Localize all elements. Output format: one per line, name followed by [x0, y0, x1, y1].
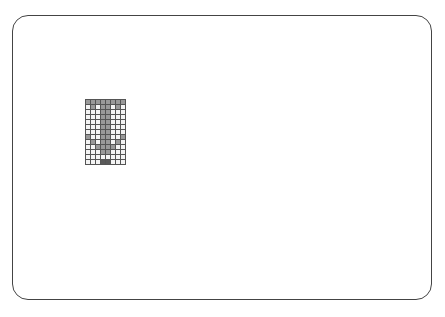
grid-cell[interactable] — [121, 160, 126, 165]
rounded-frame — [12, 15, 432, 300]
pixel-grid — [85, 99, 126, 165]
